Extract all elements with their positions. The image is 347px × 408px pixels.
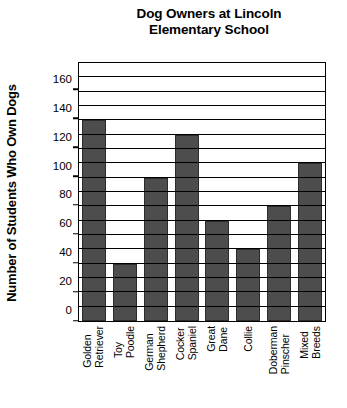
- x-axis-tick-label-line: Collie: [243, 326, 255, 352]
- x-axis-tick-label-line: Shepherd: [156, 326, 168, 371]
- plot-area: [78, 62, 326, 322]
- x-axis-tick-label: GermanShepherd: [144, 326, 168, 371]
- x-axis-label-slot: GreatDane: [202, 324, 233, 408]
- x-axis-tick-label-line: Spaniel: [187, 326, 199, 360]
- y-axis-title: Number of Students Who Own Dogs: [4, 84, 19, 302]
- bar-slot: [233, 63, 264, 321]
- y-axis-tick-label: 140: [53, 102, 72, 114]
- x-axis-tick-label: MixedBreeds: [299, 326, 323, 359]
- bar[interactable]: [144, 178, 168, 321]
- x-axis-label-slot: MixedBreeds: [295, 324, 326, 408]
- x-axis-label-slot: DobermanPinscher: [264, 324, 295, 408]
- x-axis-label-slot: GoldenRetriever: [78, 324, 109, 408]
- bar-slot: [264, 63, 295, 321]
- y-axis-tick-label: 80: [59, 188, 72, 200]
- x-axis-tick-label-line: Toy: [113, 326, 125, 358]
- chart-title-line-1: Dog Owners at Lincoln: [78, 6, 340, 22]
- x-axis-tick-label-line: Retriever: [94, 326, 106, 368]
- x-axis-tick-label-line: Breeds: [311, 326, 323, 359]
- x-axis-tick-label: Collie: [243, 326, 255, 352]
- y-axis-tick-label: 160: [53, 73, 72, 85]
- bar[interactable]: [113, 264, 137, 321]
- x-axis-tick-label-line: Pinscher: [280, 326, 292, 374]
- x-axis-tick-label: GoldenRetriever: [82, 326, 106, 368]
- bar-slot: [141, 63, 172, 321]
- bar-chart: Dog Owners at Lincoln Elementary School …: [0, 0, 347, 408]
- chart-title: Dog Owners at Lincoln Elementary School: [78, 6, 340, 39]
- bar[interactable]: [298, 163, 322, 321]
- x-axis-tick-label-line: Poodle: [125, 326, 137, 358]
- bar-slot: [171, 63, 202, 321]
- bar-slot: [202, 63, 233, 321]
- y-axis-tick-label: 100: [53, 160, 72, 172]
- x-axis-tick-label: CockerSpaniel: [175, 326, 199, 360]
- bar[interactable]: [82, 120, 106, 321]
- bar[interactable]: [175, 135, 199, 321]
- x-axis-tick-label-line: Doberman: [268, 326, 280, 374]
- x-axis-tick-label: GreatDane: [206, 326, 230, 352]
- x-axis-tick-label-line: Cocker: [175, 326, 187, 360]
- bar-slot: [294, 63, 325, 321]
- y-axis-tick-label: 40: [59, 246, 72, 258]
- x-axis-tick-label-line: Great: [206, 326, 218, 352]
- y-axis-tick-label: 0: [66, 304, 72, 316]
- x-axis-label-slot: CockerSpaniel: [171, 324, 202, 408]
- bar[interactable]: [205, 221, 229, 321]
- y-axis-tick-label: 120: [53, 131, 72, 143]
- x-axis-label-slot: GermanShepherd: [140, 324, 171, 408]
- x-axis-label-slot: Collie: [233, 324, 264, 408]
- y-axis-tick-label: 20: [59, 275, 72, 287]
- y-axis-tick-labels: 020406080100120140160: [38, 62, 78, 322]
- chart-title-line-2: Elementary School: [78, 22, 340, 38]
- y-axis-tick-label: 60: [59, 217, 72, 229]
- bar[interactable]: [267, 206, 291, 321]
- bar-slot: [110, 63, 141, 321]
- x-axis-tick-label-line: Dane: [218, 326, 230, 352]
- bar-series: [79, 63, 325, 321]
- y-axis-title-container: Number of Students Who Own Dogs: [0, 62, 22, 324]
- x-axis-tick-label-line: Golden: [82, 326, 94, 368]
- x-axis-tick-label-line: German: [144, 326, 156, 371]
- x-axis-label-slot: ToyPoodle: [109, 324, 140, 408]
- x-axis-tick-label-line: Mixed: [299, 326, 311, 359]
- x-axis-tick-label: DobermanPinscher: [268, 326, 292, 374]
- x-axis-tick-label: ToyPoodle: [113, 326, 137, 358]
- bar-slot: [79, 63, 110, 321]
- bar[interactable]: [236, 249, 260, 321]
- x-axis-category-labels: GoldenRetrieverToyPoodleGermanShepherdCo…: [78, 324, 326, 408]
